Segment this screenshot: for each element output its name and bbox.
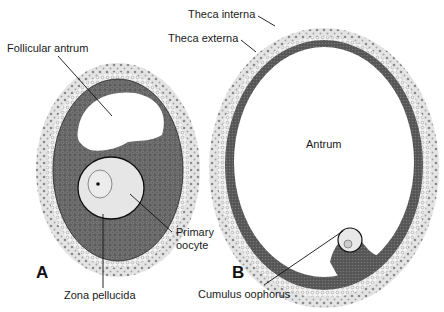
panel-label-b: B — [232, 263, 244, 283]
label-follicular-antrum: Follicular antrum — [7, 42, 88, 55]
label-primary-oocyte-line1: Primary — [176, 226, 214, 239]
nucleus-a — [88, 170, 112, 198]
label-primary-oocyte-line2: oocyte — [176, 239, 214, 252]
nucleolus-a — [96, 182, 100, 186]
label-theca-interna: Theca interna — [188, 8, 255, 21]
label-theca-externa: Theca externa — [168, 32, 238, 45]
leader-theca-interna — [258, 16, 275, 26]
leader-theca-externa — [241, 40, 256, 52]
label-primary-oocyte: Primary oocyte — [176, 226, 214, 251]
nucleus-b — [344, 240, 352, 248]
label-cumulus-oophorus: Cumulus oophorus — [198, 288, 290, 301]
panel-label-a: A — [36, 263, 48, 283]
label-antrum: Antrum — [306, 138, 341, 151]
antrum-b — [234, 47, 414, 277]
label-zona-pellucida: Zona pellucida — [64, 289, 136, 302]
